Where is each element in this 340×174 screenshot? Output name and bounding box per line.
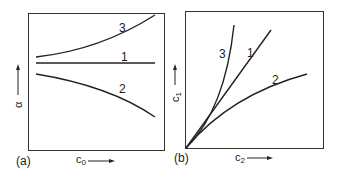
panel-b-curve-3-label: 3	[219, 47, 226, 61]
panel-b-y-arrowhead-icon	[173, 64, 177, 70]
panel-b-frame	[186, 12, 324, 149]
figure: 3 1 2 α c0 (a) 3 1 2 c1 c2 (b)	[0, 0, 340, 174]
panel-a-curve-3	[36, 15, 155, 57]
panel-a-x-label: c0	[76, 153, 87, 167]
panel-b-curve-2	[186, 74, 307, 148]
panel-a-curve-2	[36, 74, 155, 117]
panel-b-x-label: c2	[235, 151, 246, 165]
panel-b-y-label: c1	[169, 92, 183, 103]
panel-b-curve-3	[186, 25, 234, 148]
panel-b-curve-1-label: 1	[247, 46, 254, 60]
panel-a-frame	[29, 14, 165, 151]
panel-a-curve-1-label: 1	[121, 50, 128, 64]
panel-b-curve-1	[186, 30, 271, 148]
panel-a-y-label: α	[12, 101, 24, 108]
panel-a: 3 1 2 α c0 (a)	[12, 14, 165, 169]
panel-a-curve-3-label: 3	[119, 21, 126, 35]
panel-b: 3 1 2 c1 c2 (b)	[169, 12, 324, 166]
panel-b-label: (b)	[174, 151, 189, 165]
panel-a-curve-2-label: 2	[119, 82, 126, 96]
panel-a-y-arrowhead-icon	[16, 64, 20, 70]
panel-a-x-arrowhead-icon	[109, 159, 115, 163]
panel-a-label: (a)	[16, 154, 31, 168]
panel-b-x-arrowhead-icon	[267, 156, 273, 160]
panel-b-curve-2-label: 2	[272, 73, 279, 87]
